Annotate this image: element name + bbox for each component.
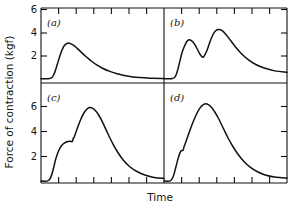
y-tick-label-top-2: 2 [31, 50, 37, 61]
y-tick-label-top-6: 6 [31, 4, 37, 15]
y-tick-label-bottom-2: 2 [31, 151, 37, 162]
y-ticks-bottom-left [41, 107, 47, 157]
panel-label-b: (b) [170, 17, 184, 28]
x-axis-label-text: Time [146, 191, 173, 203]
curve-panel-d [164, 104, 287, 181]
y-axis-label-text: Force of contraction (kgf) [3, 36, 15, 169]
y-axis-label: Force of contraction (kgf) [3, 36, 15, 169]
axis-frame [41, 8, 287, 183]
curve-panel-b [164, 29, 287, 78]
force-of-contraction-chart: Force of contraction (kgf) Time 6 4 2 6 … [0, 0, 291, 205]
y-tick-label-top-4: 4 [31, 27, 37, 38]
x-axis-label: Time [146, 191, 173, 203]
figure-container: Force of contraction (kgf) Time 6 4 2 6 … [0, 0, 291, 205]
panel-label-d: (d) [170, 92, 184, 103]
y-tick-labels-top: 6 4 2 [31, 4, 37, 61]
y-tick-label-bottom-4: 4 [31, 126, 37, 137]
y-tick-labels-bottom: 6 4 2 [31, 101, 37, 162]
panel-label-c: (c) [47, 92, 61, 103]
curve-panel-a [41, 43, 164, 79]
y-tick-label-bottom-6: 6 [31, 101, 37, 112]
panel-label-a: (a) [47, 17, 61, 28]
curve-panel-c [41, 108, 164, 182]
